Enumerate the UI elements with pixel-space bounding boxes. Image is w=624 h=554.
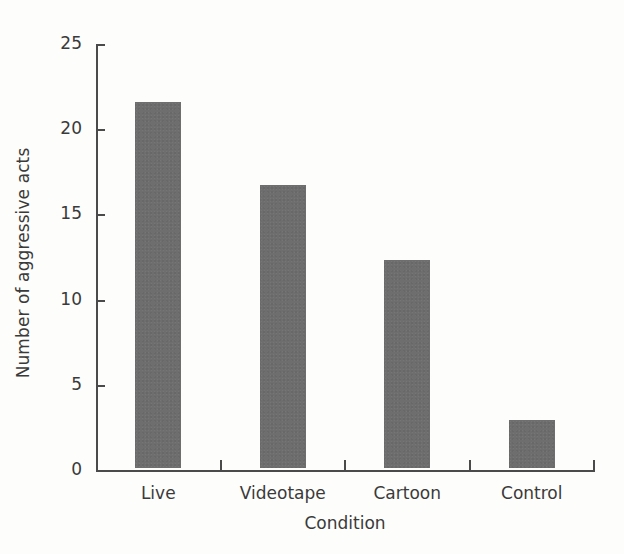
- y-axis-title-text: Number of aggressive acts: [13, 148, 33, 379]
- bar-chart-figure: Number of aggressive acts 0510152025 Liv…: [0, 0, 624, 554]
- x-axis-tick-mark: [344, 460, 346, 470]
- y-axis-tick-mark: [96, 129, 105, 131]
- bar: [509, 420, 555, 468]
- x-axis-title: Condition: [96, 513, 594, 533]
- x-axis-tick-mark: [469, 460, 471, 470]
- bar: [260, 185, 306, 468]
- x-axis-category-label: Cartoon: [373, 483, 441, 503]
- x-axis-line: [96, 470, 595, 472]
- y-axis-tick-mark: [96, 470, 105, 472]
- x-axis-category-label: Videotape: [240, 483, 326, 503]
- plot-area: 0510152025: [96, 44, 594, 470]
- y-axis-tick-label: 0: [71, 460, 82, 479]
- x-axis-tick-mark: [593, 460, 595, 470]
- y-axis-title: Number of aggressive acts: [0, 0, 46, 554]
- y-axis-tick-label: 10: [60, 290, 82, 309]
- y-axis-tick-label: 15: [60, 204, 82, 223]
- y-axis-tick-mark: [96, 385, 105, 387]
- y-axis-line: [96, 44, 98, 471]
- bar: [135, 102, 181, 468]
- x-axis-tick-mark: [220, 460, 222, 470]
- y-axis-tick-label: 25: [60, 34, 82, 53]
- bar: [384, 260, 430, 468]
- y-axis-tick-mark: [96, 214, 105, 216]
- y-axis-tick-mark: [96, 44, 105, 46]
- x-axis-category-label: Control: [501, 483, 562, 503]
- x-axis-category-label: Live: [141, 483, 176, 503]
- y-axis-tick-label: 5: [71, 375, 82, 394]
- y-axis-tick-mark: [96, 300, 105, 302]
- y-axis-tick-label: 20: [60, 119, 82, 138]
